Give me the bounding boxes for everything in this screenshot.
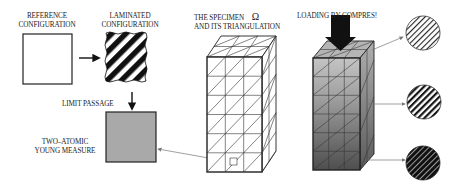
young-measure-label-line2: YOUNG MEASURE [30, 147, 100, 156]
microstructure-circle-top [406, 16, 440, 50]
specimen-label-line2: AND ITS TRIANGULATION [194, 23, 280, 32]
reference-label: REFERENCE CONFIGURATION [2, 12, 92, 29]
omega-symbol: Ω [252, 11, 259, 22]
specimen-box [207, 36, 276, 172]
specimen-label-text: THE SPECIMEN [194, 14, 244, 22]
laminated-label: LAMINATED CONFIGURATION [90, 12, 170, 29]
specimen-label: THE SPECIMEN Ω AND ITS TRIANGULATION [194, 13, 280, 31]
limit-passage-label: LIMIT PASSAGE [62, 100, 114, 109]
specimen-label-line1: THE SPECIMEN Ω [194, 13, 280, 23]
highlighted-element [230, 158, 237, 165]
microstructure-circle-middle [407, 85, 441, 119]
compressed-specimen-box [313, 15, 374, 170]
arrow-to-circle-top [372, 37, 403, 50]
young-measure-label-line1: TWO–ATOMIC [30, 138, 100, 147]
reference-label-line2: CONFIGURATION [2, 21, 92, 30]
reference-label-line1: REFERENCE [2, 12, 92, 21]
laminated-label-line1: LAMINATED [90, 12, 170, 21]
laminated-configuration-square [105, 32, 147, 82]
young-measure-label: TWO–ATOMIC YOUNG MEASURE [30, 138, 100, 155]
loading-label: LOADING BY COMPRES! [297, 12, 377, 21]
laminated-label-line2: CONFIGURATION [90, 21, 170, 30]
young-measure-square [106, 112, 156, 162]
microstructure-circle-bottom [406, 146, 440, 180]
reference-configuration-square [23, 34, 72, 84]
